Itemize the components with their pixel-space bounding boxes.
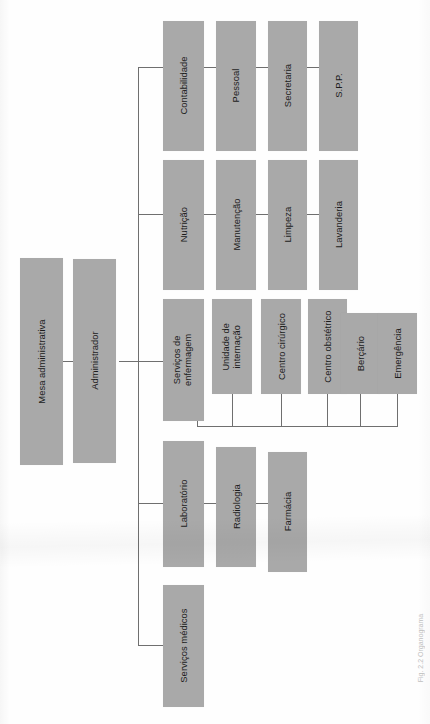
connector-bus-to-centro-obstetrico — [327, 394, 328, 427]
node-servicos-de-enfermagem[interactable]: Serviços de enfermagem — [163, 299, 204, 421]
node-mesa-administrativa[interactable]: Mesa administrativa — [20, 258, 63, 465]
node-label: Centro obstétrico — [322, 310, 333, 382]
node-limpeza[interactable]: Limpeza — [268, 160, 307, 290]
connector-trunk-to-laboratorio — [138, 503, 163, 504]
node-label: Manutenção — [230, 199, 241, 251]
connector-nutricao-to-manutencao — [204, 214, 216, 215]
node-label: Serviços de enfermagem — [173, 334, 195, 386]
figure-caption-text: Fig. 2.2 Organograma — [417, 614, 424, 682]
node-label: Nutrição — [178, 207, 189, 242]
connector-secretaria-to-spp — [307, 67, 319, 68]
figure-caption: Fig. 2.2 Organograma — [412, 578, 428, 718]
connector-root-to-admin — [63, 361, 73, 362]
node-radiologia[interactable]: Radiologia — [216, 447, 256, 567]
node-label: Radiologia — [230, 485, 241, 530]
node-label: Laboratório — [178, 480, 189, 528]
node-label: Serviços médicos — [178, 609, 189, 683]
node-emergencia[interactable]: Emergência — [378, 313, 417, 394]
node-label: S.P.P. — [333, 74, 344, 98]
connector-trunk-spine — [138, 67, 139, 645]
node-secretaria[interactable]: Secretaria — [268, 21, 307, 151]
connector-contabilidade-to-pessoal — [204, 67, 216, 68]
node-centro-cirurgico[interactable]: Centro cirúrgico — [261, 299, 301, 394]
node-label: Administrador — [89, 332, 100, 390]
node-label: Unidade de internação — [221, 323, 243, 371]
node-lavanderia[interactable]: Lavanderia — [319, 160, 358, 290]
connector-bus-to-centro-cirurgico — [281, 394, 282, 427]
node-manutencao[interactable]: Manutenção — [216, 160, 256, 290]
connector-bus-to-emergencia — [397, 394, 398, 427]
node-label: Secretaria — [282, 64, 293, 107]
node-label: Mesa administrativa — [36, 319, 47, 403]
connector-trunk-to-servicos-medicos — [138, 645, 163, 646]
node-label: Berçário — [355, 336, 366, 371]
node-spp[interactable]: S.P.P. — [319, 21, 358, 151]
connector-admin-to-trunk — [119, 361, 138, 362]
node-label: Contabilidade — [178, 57, 189, 115]
connector-pessoal-to-secretaria — [256, 67, 268, 68]
node-label: Pessoal — [230, 69, 241, 103]
node-label: Emergência — [392, 328, 403, 379]
connector-laboratorio-to-radiologia — [204, 503, 216, 504]
node-bercario[interactable]: Berçário — [341, 313, 380, 394]
node-nutricao[interactable]: Nutrição — [163, 160, 204, 290]
node-servicos-medicos[interactable]: Serviços médicos — [163, 585, 204, 707]
connector-trunk-to-nutricao — [138, 214, 163, 215]
connector-radiologia-to-farmacia — [256, 503, 268, 504]
connector-manutencao-to-limpeza — [256, 214, 268, 215]
node-label: Farmácia — [282, 492, 293, 531]
connector-bus-to-bercario — [360, 394, 361, 427]
connector-trunk-to-contabilidade — [138, 67, 163, 68]
organizational-chart-page: Mesa administrativa Administrador Contab… — [0, 0, 430, 724]
node-pessoal[interactable]: Pessoal — [216, 21, 256, 151]
connector-enfermagem-bus — [197, 426, 397, 427]
node-label: Lavanderia — [333, 202, 344, 249]
scan-artifact-band — [0, 514, 430, 568]
connector-trunk-to-enfermagem — [138, 361, 163, 362]
connector-limpeza-to-lavanderia — [307, 214, 319, 215]
node-administrador[interactable]: Administrador — [73, 259, 116, 463]
connector-bus-to-unidade-internacao — [232, 394, 233, 427]
node-laboratorio[interactable]: Laboratório — [163, 441, 204, 567]
node-label: Limpeza — [282, 207, 293, 243]
node-unidade-de-internacao[interactable]: Unidade de internação — [212, 299, 252, 394]
node-contabilidade[interactable]: Contabilidade — [163, 21, 204, 151]
node-label: Centro cirúrgico — [275, 313, 286, 380]
node-farmacia[interactable]: Farmácia — [268, 452, 307, 572]
